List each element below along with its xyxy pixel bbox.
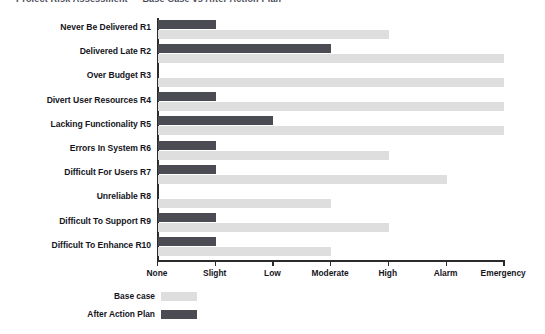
bar-row: Difficult To Support R9 (0, 212, 545, 236)
bar-base-case (158, 126, 504, 135)
x-axis-tick (446, 260, 447, 266)
category-label: Errors In System R6 (0, 143, 151, 153)
bar-row: Errors In System R6 (0, 139, 545, 163)
legend-label-after-action-plan: After Action Plan (0, 309, 155, 319)
x-axis-tick-label: Moderate (311, 268, 348, 278)
category-label: Divert User Resources R4 (0, 95, 151, 105)
bar-row: Never Be Delivered R1 (0, 18, 545, 42)
x-axis-tick (272, 260, 273, 266)
bar-after-action-plan (158, 20, 216, 29)
bar-after-action-plan (158, 213, 216, 222)
bar-base-case (158, 151, 389, 160)
bar-base-case (158, 78, 504, 87)
category-label: Difficult To Enhance R10 (0, 240, 151, 250)
bar-after-action-plan (158, 141, 216, 150)
legend-label-base-case: Base case (0, 291, 155, 301)
x-axis-tick-label: Alarm (434, 268, 458, 278)
category-label: Unreliable R8 (0, 191, 151, 201)
category-label: Over Budget R3 (0, 70, 151, 80)
bar-base-case (158, 102, 504, 111)
category-label: Delivered Late R2 (0, 46, 151, 56)
bar-row: Unreliable R8 (0, 187, 545, 211)
bar-base-case (158, 223, 389, 232)
bar-base-case (158, 54, 504, 63)
legend-item-base-case[interactable]: Base case (0, 291, 545, 304)
x-axis-tick-label: Low (264, 268, 281, 278)
bar-row: Delivered Late R2 (0, 42, 545, 66)
bar-row: Difficult For Users R7 (0, 163, 545, 187)
legend-swatch-base-case (161, 292, 197, 301)
x-axis-tick (388, 260, 389, 266)
bar-after-action-plan (158, 116, 273, 125)
x-axis-tick (330, 260, 331, 266)
bar-row: Divert User Resources R4 (0, 91, 545, 115)
category-label: Never Be Delivered R1 (0, 22, 151, 32)
legend-item-after-action-plan[interactable]: After Action Plan (0, 309, 545, 322)
bar-row: Lacking Functionality R5 (0, 115, 545, 139)
bar-after-action-plan (158, 92, 216, 101)
category-label: Lacking Functionality R5 (0, 119, 151, 129)
x-axis-tick-label: Emergency (481, 268, 526, 278)
category-label: Difficult For Users R7 (0, 167, 151, 177)
bar-base-case (158, 199, 331, 208)
chart-title-cropped: Project Risk Assessment — Base Case vs A… (16, 0, 281, 2)
legend-swatch-after-action-plan (161, 310, 197, 319)
bar-base-case (158, 30, 389, 39)
bar-row: Difficult To Enhance R10 (0, 236, 545, 260)
bar-base-case (158, 175, 447, 184)
bar-after-action-plan (158, 44, 331, 53)
x-axis-tick-label: None (147, 268, 168, 278)
x-axis-tick (503, 260, 504, 266)
bar-after-action-plan (158, 165, 216, 174)
x-axis-tick (215, 260, 216, 266)
bar-base-case (158, 247, 331, 256)
category-label: Difficult To Support R9 (0, 216, 151, 226)
bar-row: Over Budget R3 (0, 66, 545, 90)
x-axis-tick-label: High (378, 268, 397, 278)
x-axis-tick-label: Slight (203, 268, 226, 278)
risk-bar-chart: Project Risk Assessment — Base Case vs A… (0, 0, 545, 334)
bar-after-action-plan (158, 237, 216, 246)
x-axis-tick (157, 260, 158, 266)
plot-area: Never Be Delivered R1Delivered Late R2Ov… (0, 18, 545, 260)
